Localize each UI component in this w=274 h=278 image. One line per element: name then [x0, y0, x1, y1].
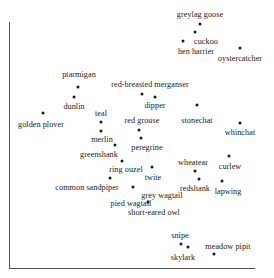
data-point	[228, 155, 231, 158]
data-point	[140, 137, 143, 140]
point-label: red-breasted merganser	[111, 80, 189, 89]
data-point	[198, 178, 201, 181]
data-point	[239, 122, 242, 125]
data-point	[196, 104, 199, 107]
point-label: redshank	[180, 184, 210, 193]
point-label: twite	[145, 173, 162, 182]
data-point	[194, 170, 197, 173]
point-label: short-eared owl	[128, 208, 180, 217]
data-point	[42, 112, 45, 115]
data-point	[132, 186, 135, 189]
data-point	[109, 177, 112, 180]
point-label: cuckoo	[194, 37, 218, 46]
data-point	[194, 31, 197, 34]
point-label: merlin	[91, 135, 113, 144]
point-label: common sandpiper	[55, 183, 118, 192]
data-point	[154, 96, 157, 99]
point-label: oystercatcher	[218, 54, 262, 63]
data-point	[138, 129, 141, 132]
point-label: golden plover	[18, 120, 64, 129]
point-label: curlew	[219, 162, 242, 171]
point-label: teal	[95, 109, 107, 118]
y-axis-line	[9, 22, 10, 268]
point-label: meadow pipit	[205, 242, 250, 251]
point-label: greylag goose	[177, 10, 223, 19]
data-point	[114, 144, 117, 147]
data-point	[199, 23, 202, 26]
point-label: greenshank	[80, 150, 118, 159]
point-label: stonechat	[181, 116, 212, 125]
point-label: red grouse	[125, 116, 160, 125]
data-point	[213, 253, 216, 256]
data-point	[239, 47, 242, 50]
data-point	[221, 180, 224, 183]
point-label: whinchat	[225, 128, 255, 137]
scatter-plot: greylag goosecuckoohen harrieroystercatc…	[0, 0, 274, 278]
point-label: dipper	[144, 101, 165, 110]
data-point	[141, 93, 144, 96]
data-point	[121, 160, 124, 163]
data-point	[77, 86, 80, 89]
data-point	[100, 130, 103, 133]
point-label: wheatear	[178, 158, 208, 167]
point-label: hen harrier	[178, 47, 214, 56]
point-label: pied wagtail	[111, 199, 152, 208]
data-point	[180, 243, 183, 246]
point-label: ptarmigan	[62, 70, 96, 79]
point-label: snipe	[171, 231, 189, 240]
point-label: peregrine	[131, 143, 162, 152]
data-point	[73, 96, 76, 99]
point-label: skylark	[171, 253, 195, 262]
point-label: ring ouzel	[109, 165, 142, 174]
point-label: dunlin	[63, 102, 84, 111]
data-point	[182, 40, 185, 43]
data-point	[151, 166, 154, 169]
data-point	[100, 121, 103, 124]
x-axis-line	[9, 268, 255, 269]
data-point	[187, 246, 190, 249]
point-label: lapwing	[215, 187, 242, 196]
